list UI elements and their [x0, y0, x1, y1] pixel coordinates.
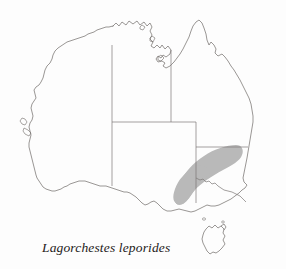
australia-map	[0, 0, 286, 269]
distribution-map-figure: Lagorchestes leporides	[0, 0, 286, 269]
species-caption: Lagorchestes leporides	[42, 240, 242, 256]
range-shading	[173, 145, 243, 205]
coastline	[29, 20, 253, 212]
state-borders	[112, 45, 248, 203]
small-islands	[202, 218, 224, 223]
